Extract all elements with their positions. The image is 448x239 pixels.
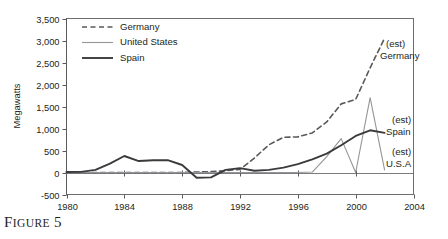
legend-label: United States <box>120 36 178 47</box>
figure-caption-number: 5 <box>54 214 62 230</box>
y-tick-label: 3,500 <box>36 15 59 25</box>
zero-baseline <box>67 171 414 177</box>
y-tick-label: 2,000 <box>36 81 59 91</box>
annotation-name-usa: U.S.A <box>386 158 412 169</box>
y-tick-label: 2,500 <box>36 59 59 69</box>
x-tick-label: 1980 <box>57 202 78 212</box>
figure-container: -50005001,0001,5002,0002,5003,0003,500 1… <box>0 0 448 239</box>
x-tick-label: 1984 <box>114 202 135 212</box>
y-tick-label: -500 <box>41 191 60 201</box>
x-tick-label: 1992 <box>230 202 251 212</box>
legend-label: Spain <box>120 52 145 63</box>
y-tick-label: 1,500 <box>36 103 59 113</box>
y-axis-ticks: -50005001,0001,5002,0002,5003,0003,500 <box>36 15 66 201</box>
y-tick-label: 1,000 <box>36 125 59 135</box>
annotation-est-spain: (est) <box>392 114 411 125</box>
x-axis-ticks: 1980198419881992199620002004 <box>57 195 425 212</box>
annotation-name-germany: Germany <box>380 50 420 61</box>
series-line-spain <box>67 130 385 178</box>
data-series-group <box>67 38 385 177</box>
y-tick-label: 500 <box>44 147 60 157</box>
figure-caption-prefix: F <box>4 214 13 230</box>
annotation-est-usa: (est) <box>392 146 411 157</box>
y-tick-label: 3,000 <box>36 37 59 47</box>
annotation-name-spain: Spain <box>386 126 411 137</box>
y-tick-label: 0 <box>54 169 59 179</box>
series-line-germany <box>67 38 385 172</box>
x-tick-label: 1996 <box>288 202 309 212</box>
legend-label: Germany <box>120 21 160 32</box>
x-tick-label: 2004 <box>404 202 425 212</box>
y-axis-title: Megawatts <box>12 83 22 128</box>
annotation-est-germany: (est) <box>386 38 405 49</box>
figure-caption-word: IGURE <box>13 217 50 229</box>
wind-capacity-line-chart: -50005001,0001,5002,0002,5003,0003,500 1… <box>0 0 448 239</box>
x-tick-label: 2000 <box>346 202 367 212</box>
x-tick-label: 1988 <box>172 202 193 212</box>
figure-caption: FIGURE 5 <box>4 214 62 231</box>
chart-legend: GermanyUnited StatesSpain <box>82 21 178 63</box>
